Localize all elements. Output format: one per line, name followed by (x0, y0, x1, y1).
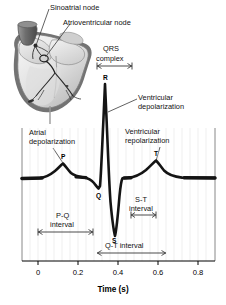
label-sinoatrial-node: Sinoatrial node (50, 3, 99, 12)
label-ventricular-repolarization-line2: repolarization (125, 136, 169, 145)
x-tick-label-2: 0.4 (108, 268, 128, 277)
x-axis-title: Time (s) (0, 285, 226, 294)
label-qt-interval: Q-T interval (105, 241, 143, 250)
wave-label-s: S (112, 237, 116, 245)
heart-body (18, 35, 89, 108)
x-tick-label-1: 0.2 (68, 268, 88, 277)
right-bundle-branch (36, 73, 55, 96)
label-st-interval-line1: S-T (135, 195, 147, 204)
interventricular-septum (54, 56, 57, 98)
ventricular-depolarization-leader (108, 99, 137, 112)
x-axis-ticks (38, 261, 198, 265)
label-atrial-depolarization-line1: Atrial (29, 128, 46, 137)
internodal-pathway-2 (33, 46, 36, 59)
right-atrium (19, 38, 52, 64)
qt-interval-arrow (97, 251, 166, 256)
purkinje-fiber-3 (66, 90, 71, 100)
left-bundle-branch (55, 73, 73, 96)
right-ventricle-shading (26, 66, 61, 106)
label-qrs-complex-line1: QRS (103, 44, 119, 53)
wave-label-p: P (61, 153, 65, 161)
x-tick-label-3: 0.6 (148, 268, 168, 277)
purkinje-fiber-2 (38, 90, 44, 100)
label-pq-interval-line2: interval (50, 220, 74, 229)
sinoatrial-leader (37, 9, 50, 44)
label-atrioventricular-node: Atrioventricular node (63, 18, 131, 27)
apex-marker-2 (66, 85, 69, 87)
internodal-pathway-1 (36, 46, 43, 56)
x-tick-label-4: 0.8 (188, 268, 208, 277)
atrioventricular-leader (46, 24, 71, 57)
heart-outer-rim (14, 32, 92, 113)
ecg-baseline-left (22, 178, 42, 179)
label-qrs-complex-line2: complex (96, 54, 124, 63)
purkinje-fiber-1 (29, 96, 36, 102)
qrs-complex-arrow (97, 63, 132, 70)
purkinje-fiber-4 (73, 96, 81, 99)
x-tick-label-0: 0 (30, 268, 46, 277)
wave-label-q: Q (96, 192, 101, 200)
ecg-pq-segment (76, 177, 86, 178)
superior-vena-cava (18, 22, 37, 45)
label-pq-interval-line1: P-Q (56, 211, 69, 220)
internodal-pathway-3 (36, 46, 49, 52)
label-ventricular-depolarization-line1: Ventricular (138, 93, 173, 102)
pq-interval-arrow (38, 229, 93, 236)
apex-marker-1 (28, 99, 35, 103)
label-st-interval-line2: interval (129, 204, 153, 213)
wave-label-r: R (103, 74, 108, 82)
label-ventricular-repolarization-line1: Ventricular (125, 127, 160, 136)
left-atrium (49, 40, 84, 65)
bundle-of-his (46, 61, 55, 73)
ecg-figure: Sinoatrial node Atrioventricular node QR… (0, 0, 226, 305)
pulmonary-vessels (60, 32, 83, 44)
sinoatrial-node-marker (34, 44, 38, 48)
ecg-trace (22, 84, 215, 236)
vessel-opening (18, 21, 37, 27)
label-ventricular-depolarization-line2: depolarization (138, 102, 184, 111)
label-atrial-depolarization-line2: depolarization (29, 137, 75, 146)
atrioventricular-node-marker (40, 55, 48, 62)
wave-label-t: T (154, 150, 158, 158)
